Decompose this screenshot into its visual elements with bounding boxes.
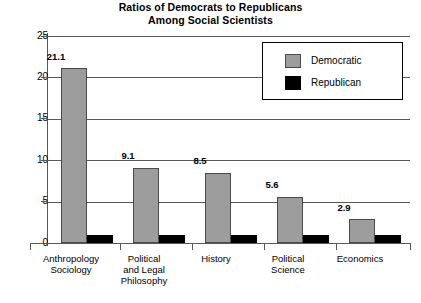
bar-value-label-political-and-legal-philosophy: 9.1	[114, 151, 142, 161]
x-tick-mark-5	[410, 243, 411, 250]
chart-legend: Democratic Republican	[262, 42, 403, 100]
bar-value-label-economics: 2.9	[330, 203, 358, 213]
bar-republican-political-science	[303, 235, 329, 243]
x-tick-mark-0	[30, 243, 31, 250]
x-tick-mark-4	[336, 243, 337, 250]
x-axis-line	[30, 243, 411, 244]
bar-republican-political-and-legal-philosophy	[159, 235, 185, 243]
gridline-15	[48, 119, 410, 120]
category-line: and Legal	[96, 264, 192, 275]
legend-label-republican: Republican	[311, 77, 361, 89]
x-tick-mark-1	[120, 243, 121, 250]
chart-title-line-1: Ratios of Democrats to Republicans	[119, 1, 303, 13]
bar-value-label-history: 8.5	[186, 156, 214, 166]
bar-republican-history	[231, 235, 257, 243]
gridline-10	[48, 160, 410, 161]
bar-chart: Ratios of Democrats to Republicans Among…	[0, 0, 421, 303]
x-axis-category-label-economics: Economics	[312, 253, 408, 264]
x-tick-mark-2	[192, 243, 193, 250]
chart-title: Ratios of Democrats to Republicans Among…	[0, 1, 421, 26]
y-tick-mark-5	[41, 201, 48, 202]
category-line: Economics	[312, 253, 408, 264]
legend-swatch-democratic-icon	[285, 54, 301, 68]
bar-republican-economics	[375, 235, 401, 243]
y-tick-mark-25	[41, 36, 48, 37]
bar-republican-anthropology-sociology	[87, 235, 113, 243]
bar-democratic-anthropology-sociology	[61, 68, 87, 243]
x-tick-mark-3	[264, 243, 265, 250]
chart-title-line-2: Among Social Scientists	[0, 14, 421, 27]
y-tick-mark-15	[41, 118, 48, 119]
bar-value-label-anthropology-sociology: 21.1	[42, 52, 70, 62]
category-line: Science	[240, 264, 336, 275]
bar-value-label-political-science: 5.6	[258, 180, 286, 190]
bar-democratic-political-science	[277, 197, 303, 243]
gridline-25	[48, 36, 410, 37]
y-tick-mark-0	[41, 243, 48, 244]
bar-democratic-economics	[349, 219, 375, 243]
y-tick-mark-10	[41, 160, 48, 161]
legend-label-democratic: Democratic	[311, 55, 362, 67]
legend-swatch-republican-icon	[285, 76, 301, 90]
category-line: Philosophy	[96, 275, 192, 286]
bar-democratic-political-and-legal-philosophy	[133, 168, 159, 243]
y-tick-mark-20	[41, 77, 48, 78]
bar-democratic-history	[205, 173, 231, 243]
